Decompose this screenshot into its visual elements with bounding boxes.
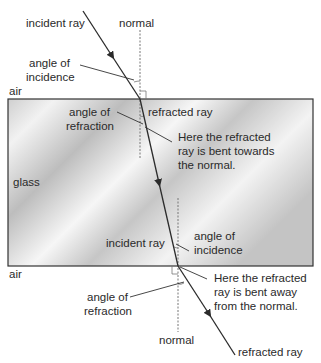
label-normal-bottom: normal	[159, 334, 194, 347]
label-incident-ray-bottom: incident ray	[106, 237, 165, 250]
label-angle-of-incidence-bottom-1: angle of	[194, 230, 235, 243]
label-angle-of-incidence-bottom-2: incidence	[194, 244, 243, 257]
label-incident-ray-top: incident ray	[26, 17, 85, 30]
label-air-top: air	[9, 85, 22, 98]
label-note-towards-3: the normal.	[178, 159, 236, 172]
label-angle-of-incidence-top-1: angle of	[29, 57, 70, 70]
incident-ray	[83, 11, 112, 56]
label-angle-of-refraction-bottom-1: angle of	[87, 291, 128, 304]
right-angle-mark-bottom	[172, 266, 178, 274]
right-angle-mark-top	[140, 91, 146, 99]
leader-note-away	[180, 267, 207, 279]
label-note-away-2: ray is bent away	[214, 286, 297, 299]
label-normal-top: normal	[119, 17, 154, 30]
label-angle-of-incidence-top-2: incidence	[26, 71, 75, 84]
label-refracted-ray-top: refracted ray	[148, 106, 213, 119]
label-glass: glass	[13, 176, 40, 189]
leader-angle-of-incidence-top	[80, 65, 134, 80]
label-note-towards-1: Here the refracted	[178, 131, 271, 144]
label-air-bottom: air	[9, 268, 22, 281]
angle-of-incidence-arc-top	[134, 81, 140, 82]
label-note-away-3: from the normal.	[214, 300, 298, 313]
label-refracted-ray-bottom: refracted ray	[238, 346, 303, 359]
label-angle-of-refraction-bottom-2: refraction	[84, 305, 132, 318]
label-angle-of-refraction-top-1: angle of	[69, 106, 110, 119]
label-angle-of-refraction-top-2: refraction	[66, 120, 114, 133]
label-note-towards-2: ray is bent towards	[178, 145, 275, 158]
leader-angle-of-refraction-bottom	[130, 282, 184, 297]
label-note-away-1: Here the refracted	[214, 272, 307, 285]
emergent-ray-segment	[209, 314, 235, 355]
